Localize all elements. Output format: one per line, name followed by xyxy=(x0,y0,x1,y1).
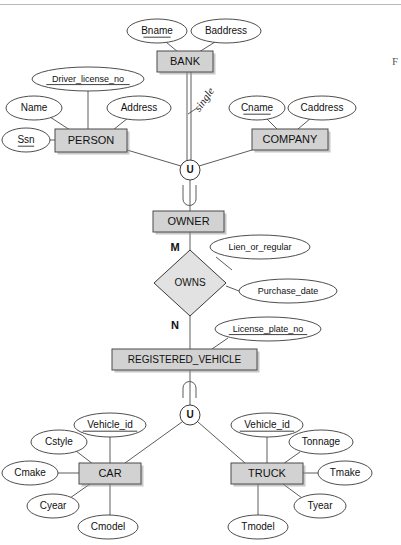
attribute-name[interactable]: Name xyxy=(6,96,62,120)
entity-owner[interactable]: OWNER xyxy=(153,211,227,235)
attribute-cmake[interactable]: Cmake xyxy=(2,461,58,485)
attribute-lien_or_regular[interactable]: Lien_or_regular xyxy=(210,235,310,259)
attribute-cyear[interactable]: Cyear xyxy=(27,494,79,518)
attribute-cname[interactable]: Cname xyxy=(229,96,285,120)
attribute-label-address: Address xyxy=(121,102,158,113)
attribute-purchase_date[interactable]: Purchase_date xyxy=(239,279,337,303)
attribute-label-tmodel: Tmodel xyxy=(241,521,274,532)
attribute-bname[interactable]: Bname xyxy=(127,19,187,43)
attribute-car_vehicle_id[interactable]: Vehicle_id xyxy=(74,413,146,437)
er-diagram-page: F xyxy=(0,0,401,545)
line-cname-company xyxy=(266,118,277,129)
attribute-cstyle[interactable]: Cstyle xyxy=(31,430,87,454)
attribute-tmodel[interactable]: Tmodel xyxy=(228,515,288,539)
line-company-u xyxy=(199,150,252,166)
union-node-u-vehicle[interactable]: U xyxy=(180,405,200,425)
attribute-baddress[interactable]: Baddress xyxy=(191,19,261,43)
line-caddress-company xyxy=(298,118,311,129)
cardinality-card-n: N xyxy=(171,319,179,331)
attribute-label-tyear: Tyear xyxy=(307,500,333,511)
line-address-person xyxy=(113,118,128,130)
attribute-label-cstyle: Cstyle xyxy=(45,436,73,447)
attribute-address[interactable]: Address xyxy=(107,96,171,120)
attribute-driver_license_no[interactable]: Driver_license_no xyxy=(32,67,144,91)
union-node-u-owner[interactable]: U xyxy=(180,160,200,180)
entity-person[interactable]: PERSON xyxy=(55,129,130,155)
attribute-label-truck_vehicle_id: Vehicle_id xyxy=(244,419,290,430)
attribute-label-license_plate_no: License_plate_no xyxy=(233,324,304,334)
union-label-u-owner: U xyxy=(186,164,193,175)
attribute-label-cmake: Cmake xyxy=(14,467,46,478)
line-tonnage-truck xyxy=(283,452,300,464)
attribute-label-name: Name xyxy=(21,102,48,113)
attribute-cmodel[interactable]: Cmodel xyxy=(78,515,138,539)
entity-car[interactable]: CAR xyxy=(79,463,144,487)
attribute-ssn[interactable]: Ssn xyxy=(2,128,50,152)
entity-label-company: COMPANY xyxy=(263,133,318,145)
entity-label-bank: BANK xyxy=(170,55,201,67)
attribute-label-caddress: Caddress xyxy=(301,102,344,113)
line-cstyle-car xyxy=(76,451,93,464)
union-label-u-vehicle: U xyxy=(186,409,193,420)
attribute-tonnage[interactable]: Tonnage xyxy=(289,430,353,454)
attribute-label-car_vehicle_id: Vehicle_id xyxy=(87,419,133,430)
entity-label-owner: OWNER xyxy=(167,215,209,227)
entity-company[interactable]: COMPANY xyxy=(252,129,331,153)
relationship-owns[interactable]: OWNS xyxy=(154,250,226,316)
er-diagram-canvas: BnameBaddressDriver_license_noNameAddres… xyxy=(0,0,401,545)
attribute-label-lien_or_regular: Lien_or_regular xyxy=(228,242,291,252)
entity-regveh[interactable]: REGISTERED_VEHICLE xyxy=(112,349,260,373)
entity-bank[interactable]: BANK xyxy=(157,51,216,75)
annotation-leader-single-note xyxy=(188,108,197,114)
line-name-person xyxy=(50,117,70,130)
attribute-label-purchase_date: Purchase_date xyxy=(258,286,319,296)
attribute-label-tonnage: Tonnage xyxy=(302,436,341,447)
entity-label-person: PERSON xyxy=(68,134,115,146)
relationship-label-owns: OWNS xyxy=(174,277,205,288)
entity-label-regveh: REGISTERED_VEHICLE xyxy=(128,354,242,365)
subset-symbol-upper xyxy=(183,185,196,206)
attribute-label-cname: Cname xyxy=(241,102,274,113)
subset-symbol-lower xyxy=(183,382,196,398)
entity-label-truck: TRUCK xyxy=(248,467,287,479)
attribute-label-baddress: Baddress xyxy=(205,25,247,36)
line-person-u xyxy=(127,150,181,166)
attribute-label-driver_license_no: Driver_license_no xyxy=(52,74,124,84)
attribute-label-ssn: Ssn xyxy=(17,134,34,145)
attribute-label-cmodel: Cmodel xyxy=(91,521,125,532)
annotation-layer: single xyxy=(188,85,216,114)
line-lien-owns xyxy=(216,257,232,270)
cardinality-card-m: M xyxy=(170,241,179,253)
attribute-license_plate_no[interactable]: License_plate_no xyxy=(215,317,321,341)
line-purchase-owns xyxy=(226,286,239,291)
entity-label-car: CAR xyxy=(98,467,121,479)
attribute-label-cyear: Cyear xyxy=(40,500,67,511)
entity-truck[interactable]: TRUCK xyxy=(231,463,306,487)
attribute-truck_vehicle_id[interactable]: Vehicle_id xyxy=(231,413,303,437)
line-licenseplate-regveh xyxy=(212,338,228,349)
relationship-layer: OWNS xyxy=(154,250,226,316)
attribute-tyear[interactable]: Tyear xyxy=(294,494,346,518)
attribute-label-tmake: Tmake xyxy=(330,467,361,478)
attribute-tmake[interactable]: Tmake xyxy=(318,461,372,485)
attribute-label-bname: Bname xyxy=(141,25,173,36)
attribute-caddress[interactable]: Caddress xyxy=(288,96,356,120)
